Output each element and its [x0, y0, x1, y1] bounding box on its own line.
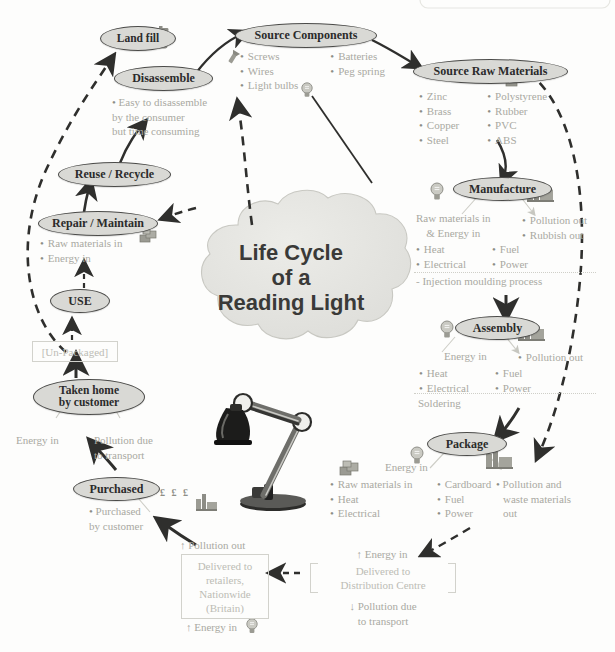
retail-box: Delivered to retailers, Nationwide (Brit…: [181, 554, 269, 619]
manufacture-outputs: Pollution out Rubbish out: [522, 213, 587, 242]
source-components-col2: Batteries Peg spring: [330, 49, 385, 93]
package-outputs: • Pollution and waste materials out: [496, 477, 571, 521]
reading-lamp-illustration: [214, 394, 311, 511]
assembly-divider: [414, 393, 596, 394]
distribution-centre-box: Delivered to Distribution Centre: [310, 563, 456, 593]
manufacture-output: Pollution out: [522, 213, 587, 228]
taken-home-pollution-line2: to transport: [94, 448, 153, 463]
manufacture-divider: [414, 272, 596, 273]
source-components-col1: Screws Wires Light bulbs: [240, 49, 298, 93]
assembly-input: Heat: [419, 366, 481, 381]
node-source-raw-materials[interactable]: Source Raw Materials: [413, 59, 568, 84]
manufacture-inputs-header: Raw materials in & Energy in: [416, 211, 491, 240]
top-frame-outline: [420, 0, 610, 8]
package-input: Heat: [330, 492, 423, 507]
retail-box-line3: Nationwide: [199, 587, 250, 601]
node-source-components[interactable]: Source Components: [235, 23, 377, 48]
package-in-col1: Raw materials in Heat Electrical: [330, 477, 423, 521]
package-in-col2: Cardboard Fuel Power: [437, 477, 491, 521]
manufacture-inputs-line2: & Energy in: [416, 226, 491, 241]
arrow-repair-to-reuse: [84, 184, 90, 212]
cloud-title-line1: Life Cycle: [206, 240, 376, 265]
repair-item: Energy in: [40, 251, 122, 266]
retail-pollution-out: ↑ Pollution out: [180, 538, 245, 553]
manufacture-input: Electrical: [416, 257, 478, 272]
dashed-arrow-to-source-components: [238, 104, 252, 225]
node-reuse-recycle[interactable]: Reuse / Recycle: [58, 162, 171, 187]
disassemble-note-line2: by the consumer: [112, 110, 207, 125]
node-manufacture[interactable]: Manufacture: [453, 177, 552, 201]
package-input: Cardboard: [437, 477, 491, 492]
package-output-line2: waste materials: [496, 492, 571, 507]
package-inputs-header: Energy in: [385, 460, 428, 475]
un-packaged-box: [Un-Packaged]: [32, 341, 118, 362]
manufacture-input: Heat: [416, 242, 478, 257]
repair-maintain-items: Raw materials in Energy in: [40, 236, 122, 265]
assembly-process: Soldering: [418, 396, 461, 411]
raw-material-blocks-icon-package: [340, 461, 358, 475]
repair-item: Raw materials in: [40, 236, 122, 251]
manufacture-in-col2: Fuel Power: [492, 242, 528, 271]
purchased-currency-icon: £ £ £: [160, 486, 190, 501]
assembly-inputs: Heat Electrical Fuel Power: [419, 366, 531, 395]
distribution-box-line1: Delivered to: [318, 564, 448, 578]
manufacture-output: Rubbish out: [522, 228, 587, 243]
distribution-box-line2: Distribution Centre: [318, 578, 448, 592]
package-output-line1: Pollution and: [503, 478, 562, 490]
distribution-pollution-line2: to transport: [318, 614, 448, 629]
source-components-item: Light bulbs: [240, 78, 298, 93]
manufacture-in-col1: Heat Electrical: [416, 242, 478, 271]
package-input: Electrical: [330, 506, 423, 521]
package-inputs: Raw materials in Heat Electrical Cardboa…: [330, 477, 491, 521]
manufacture-input: Fuel: [492, 242, 528, 257]
screw-icon: [226, 50, 240, 65]
manufacture-process: - Injection moulding process: [416, 274, 542, 289]
dashed-arrow-to-repair: [164, 208, 196, 218]
assembly-in-col2: Fuel Power: [495, 366, 531, 395]
package-input: Fuel: [437, 492, 491, 507]
lightbulb-icon-assembly: [441, 321, 453, 337]
arrow-assembly-to-package: [498, 408, 519, 437]
taken-home-pollution-label: Pollution due to transport: [94, 433, 153, 462]
assembly-input: Fuel: [495, 366, 531, 381]
distribution-pollution: ↓ Pollution due to transport: [318, 599, 448, 628]
source-raw-item: PVC: [487, 118, 547, 133]
purchased-line2: by customer: [89, 519, 143, 534]
retail-box-line1: Delivered to: [198, 559, 253, 573]
source-raw-item: Zinc: [419, 89, 459, 104]
package-output-line3: out: [496, 506, 571, 521]
faint-branch-package-in: [430, 453, 444, 468]
node-repair-maintain[interactable]: Repair / Maintain: [38, 211, 158, 236]
node-use[interactable]: USE: [50, 289, 110, 313]
source-raw-materials-items: Zinc Brass Copper Steel Polystyrene Rubb…: [419, 89, 547, 147]
source-components-item: Peg spring: [330, 64, 385, 79]
source-raw-item: Copper: [419, 118, 459, 133]
lifecycle-diagram: Land fill Disassemble • Easy to disassem…: [0, 0, 615, 652]
disassemble-note-line3: but time consuming: [112, 124, 207, 139]
source-raw-materials-col1: Zinc Brass Copper Steel: [419, 89, 459, 147]
retail-box-line4: (Britain): [206, 601, 244, 615]
assembly-in-col1: Heat Electrical: [419, 366, 481, 395]
source-raw-item: Rubber: [487, 104, 547, 119]
manufacture-inputs-line1: Raw materials in: [416, 211, 491, 226]
assembly-outputs: Pollution out: [518, 350, 583, 365]
purchased-items: • Purchased by customer: [89, 504, 143, 533]
node-land-fill[interactable]: Land fill: [100, 26, 176, 51]
disassemble-note: • Easy to disassemble by the consumer bu…: [112, 95, 207, 139]
taken-home-pollution-line1: Pollution due: [94, 433, 153, 448]
retail-box-line2: retailers,: [206, 573, 244, 587]
lightbulb-icon-manufacture: [431, 183, 443, 199]
node-disassemble[interactable]: Disassemble: [114, 66, 213, 91]
page-title: Life Cycle of a Reading Light: [206, 240, 376, 315]
node-package[interactable]: Package: [427, 432, 507, 456]
assembly-output: Pollution out: [518, 350, 583, 365]
cloud-title-line3: Reading Light: [206, 290, 376, 315]
retail-energy-in: ↑ Energy in: [186, 620, 237, 635]
node-taken-home-by-customer[interactable]: Taken home by customer: [33, 379, 145, 415]
bracket-right: [448, 563, 456, 593]
source-raw-item: Polystyrene: [487, 89, 547, 104]
source-raw-item: Steel: [419, 133, 459, 148]
source-components-item: Screws: [240, 49, 298, 64]
node-purchased[interactable]: Purchased: [73, 477, 160, 501]
node-assembly[interactable]: Assembly: [455, 316, 540, 340]
